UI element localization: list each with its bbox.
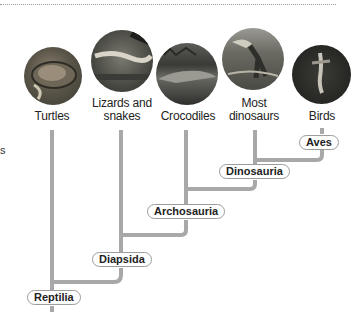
taxon-label-line1: Birds	[309, 109, 335, 123]
clade-label-reptilia: Reptilia	[27, 290, 81, 305]
clade-label-diapsida: Diapsida	[92, 252, 152, 267]
taxon-label-line1: Turtles	[35, 109, 70, 123]
bird-photo	[292, 45, 351, 104]
taxon-label-turtles: Turtles	[35, 110, 70, 123]
clade-label-aves: Aves	[299, 135, 339, 150]
dinosaur-photo	[222, 28, 284, 90]
clade-label-dinosauria: Dinosauria	[219, 164, 290, 179]
taxon-label-line2: snakes	[92, 110, 152, 123]
taxon-label-crocodiles: Crocodiles	[161, 110, 216, 123]
crocodile-photo	[156, 43, 218, 105]
lizard-photo	[91, 30, 153, 92]
taxon-label-birds: Birds	[309, 110, 335, 123]
turtle-photo	[24, 47, 82, 105]
taxon-label-lizards: Lizards and snakes	[92, 97, 152, 123]
taxon-label-line1: Crocodiles	[161, 109, 216, 123]
taxon-label-line2: dinosaurs	[229, 110, 279, 123]
clade-label-archosauria: Archosauria	[147, 204, 225, 219]
taxon-label-dinosaurs: Most dinosaurs	[229, 97, 279, 123]
